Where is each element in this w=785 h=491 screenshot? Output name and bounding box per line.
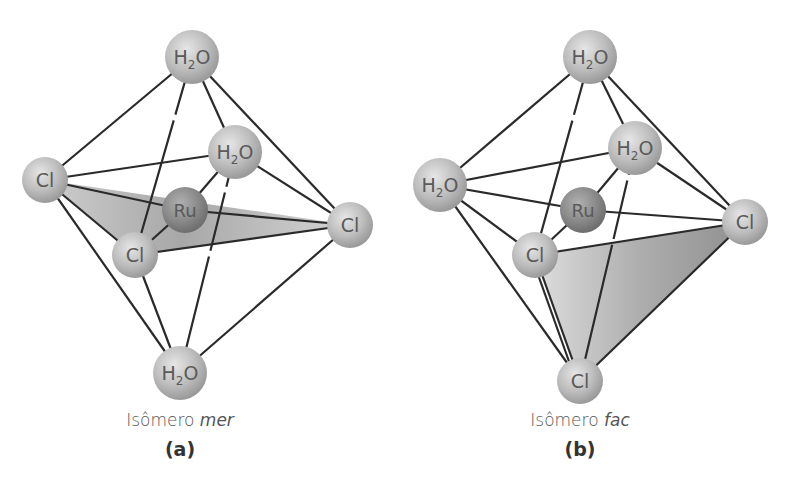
svg-text:Cl: Cl (571, 370, 590, 392)
atom-back-h2o-b: H2O (608, 121, 662, 175)
svg-text:Cl: Cl (736, 211, 755, 233)
atom-back-h2o-a: H2O (208, 125, 262, 179)
fac-isomer-diagram: H2O H2O H2O Ru Cl Cl (413, 30, 768, 404)
svg-text:Cl: Cl (341, 214, 360, 236)
caption-fac: Isômero fac (480, 410, 680, 430)
atom-bottom-h2o-a: H2O (153, 346, 207, 400)
svg-text:Cl: Cl (526, 244, 545, 266)
atom-top-h2o-b: H2O (563, 30, 617, 84)
svg-text:Ru: Ru (571, 200, 594, 221)
atom-left-h2o-b: H2O (413, 158, 467, 212)
caption-mer-prefix: Isômero (126, 410, 200, 430)
atom-top-h2o-a: H2O (165, 30, 219, 84)
label-a: (a) (140, 438, 220, 460)
atom-ru-b: Ru (560, 187, 606, 233)
mer-isomer-diagram: H2O H2O Cl Ru Cl Cl (22, 30, 373, 400)
atom-bottom-cl-b: Cl (557, 358, 603, 404)
atom-ru-a: Ru (162, 187, 208, 233)
caption-mer: Isômero mer (80, 410, 280, 430)
caption-fac-italic: fac (604, 410, 630, 430)
caption-fac-prefix: Isômero (530, 410, 604, 430)
octahedral-isomers-figure: 3 2 3 (0, 0, 785, 491)
atom-right-cl-b: Cl (722, 199, 768, 245)
atom-front-cl-a: Cl (112, 232, 158, 278)
svg-text:Cl: Cl (36, 169, 55, 191)
caption-mer-italic: mer (200, 410, 234, 430)
svg-text:Ru: Ru (173, 200, 196, 221)
atom-right-cl-a: Cl (327, 202, 373, 248)
atom-front-cl-b: Cl (512, 232, 558, 278)
label-b: (b) (540, 438, 620, 460)
atom-left-cl-a: Cl (22, 157, 68, 203)
svg-text:Cl: Cl (126, 244, 145, 266)
